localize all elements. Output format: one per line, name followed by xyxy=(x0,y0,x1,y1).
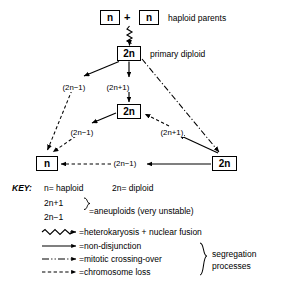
diagram-canvas: n + n 2n 2n n 2n haploid parents primary… xyxy=(0,0,282,289)
edge-label-2n-minus-1-bottom: (2n−1) xyxy=(113,160,137,168)
segregation-processes-label-line1: segregation xyxy=(212,250,256,259)
node-label: n xyxy=(44,159,50,169)
node-bottom-diploid[interactable]: 2n xyxy=(212,156,237,171)
node-label: 2n xyxy=(123,49,135,59)
plus-sign: + xyxy=(124,12,130,23)
legend-non-disjunction-text: =non-disjunction xyxy=(79,242,141,251)
legend-line-heterokaryosis xyxy=(42,230,76,235)
node-haploid-parent-right[interactable]: n xyxy=(139,10,159,25)
edge-primary-to-bottom-diploid-crossover xyxy=(142,59,219,152)
edge-2n-minus-1-to-bottom-haploid-loss xyxy=(48,90,73,150)
edge-label-2n-minus-1-mid: (2n−1) xyxy=(70,129,94,137)
edge-middle-diploid-to-2n-minus-1 xyxy=(92,113,116,123)
edge-heterokaryosis-to-primary-diploid xyxy=(127,26,132,46)
node-label: n xyxy=(107,13,113,23)
edge-2n-minus-1-lower-to-bottom-haploid xyxy=(53,136,76,152)
edge-label-2n-plus-1-mid: (2n+1) xyxy=(160,129,184,137)
node-primary-diploid[interactable]: 2n xyxy=(117,46,141,61)
legend-mitotic-crossover-text: =mitotic crossing-over xyxy=(79,255,162,264)
edge-2n-plus-1-to-middle-diploid-loss xyxy=(145,114,169,126)
node-label: 2n xyxy=(219,159,231,169)
legend-chromosome-loss-text: =chromosome loss xyxy=(79,268,151,277)
aneuploid-line1: 2n+1 xyxy=(44,199,63,208)
haploid-parents-label: haploid parents xyxy=(168,14,226,23)
aneuploid-result: =aneuploids (very unstable) xyxy=(89,207,194,216)
key-def-diploid: 2n= diploid xyxy=(112,184,153,193)
edge-label-2n-minus-1-upper: (2n−1) xyxy=(62,84,86,92)
edge-primary-to-2n-minus-1 xyxy=(84,62,119,77)
key-def-haploid: n= haploid xyxy=(44,184,83,193)
node-middle-diploid[interactable]: 2n xyxy=(117,104,141,119)
edge-label-2n-plus-1-upper: (2n+1) xyxy=(106,84,130,92)
node-haploid-parent-left[interactable]: n xyxy=(100,10,120,25)
node-bottom-haploid[interactable]: n xyxy=(36,156,58,171)
segregation-brace xyxy=(200,243,207,275)
primary-diploid-label: primary diploid xyxy=(150,50,205,59)
segregation-processes-label-line2: processes xyxy=(212,262,251,271)
legend-heterokaryosis-text: =heterokaryosis + nuclear fusion xyxy=(79,228,202,237)
node-label: 2n xyxy=(123,107,135,117)
node-label: n xyxy=(146,13,152,23)
aneuploid-line2: 2n−1 xyxy=(44,213,63,222)
key-title: KEY: xyxy=(12,184,32,193)
